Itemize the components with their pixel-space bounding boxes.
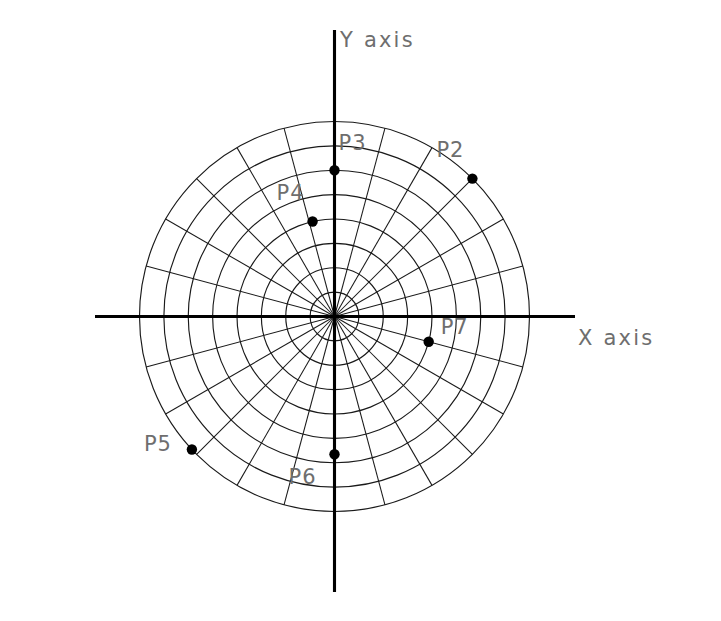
x-axis-label: X axis xyxy=(578,326,654,350)
y-axis-label: Y axis xyxy=(339,28,415,52)
point-label-p5: P5 xyxy=(144,432,172,456)
data-point-p3[interactable] xyxy=(329,165,339,175)
point-label-p2: P2 xyxy=(436,138,464,162)
polar-diagram-figure: P2P3P4P5P6P7 Y axis X axis xyxy=(0,0,721,621)
data-point-p6[interactable] xyxy=(329,449,339,459)
point-label-p3: P3 xyxy=(339,131,367,155)
point-label-p6: P6 xyxy=(289,465,317,489)
point-label-p4: P4 xyxy=(277,181,305,205)
figure-background xyxy=(0,0,721,621)
data-point-p2[interactable] xyxy=(467,173,477,183)
data-point-p4[interactable] xyxy=(307,216,317,226)
data-point-p7[interactable] xyxy=(423,337,433,347)
data-point-p5[interactable] xyxy=(187,444,197,454)
point-label-p7: P7 xyxy=(441,315,469,339)
polar-plot-canvas: P2P3P4P5P6P7 Y axis X axis xyxy=(0,0,721,621)
